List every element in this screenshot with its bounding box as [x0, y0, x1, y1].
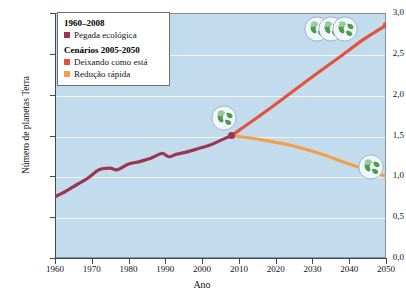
legend-swatch-icon: [64, 59, 70, 65]
legend-item-pegada-ecologica: Pegada ecológica: [64, 29, 164, 41]
legend-item-deixando-como-esta: Deixando como está: [64, 56, 164, 68]
globe-icon: [211, 105, 237, 131]
legend-item-label: Deixando como está: [74, 56, 147, 68]
legend-item-label: Redução rápida: [74, 68, 130, 80]
chart-legend: 1960–2008 Pegada ecológica Cenários 2005…: [57, 12, 170, 86]
scenario-endpoint-marker: [383, 22, 389, 28]
legend-item-reducao-rapida: Redução rápida: [64, 68, 164, 80]
globe-icon: [332, 16, 358, 42]
legend-item-label: Pegada ecológica: [74, 29, 137, 41]
legend-heading-scenarios: Cenários 2005-2050: [64, 44, 164, 56]
legend-heading-historical: 1960–2008: [64, 17, 164, 29]
legend-swatch-icon: [64, 32, 70, 38]
legend-swatch-icon: [64, 71, 70, 77]
globe-icon: [358, 154, 384, 180]
branch-point-marker: [228, 132, 235, 139]
series-line-pegada-ecol-gica: [55, 136, 232, 197]
